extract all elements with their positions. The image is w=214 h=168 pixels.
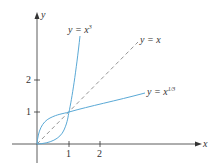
x-axis-arrow-icon [195, 142, 202, 147]
label-x-cubed: y = x3 [68, 24, 92, 35]
line-y-equals-x [37, 42, 138, 144]
y-axis-arrow-icon [35, 12, 40, 19]
x-axis-label: x [203, 138, 207, 149]
label-cube-root-base: y = x [147, 86, 168, 97]
curve-cube-root [37, 93, 145, 144]
y-tick-label-2: 2 [26, 74, 31, 85]
y-axis-label: y [41, 9, 45, 20]
y-tick-label-1: 1 [26, 106, 31, 117]
chart-canvas [0, 0, 214, 168]
curve-x-cubed [37, 36, 80, 144]
x-tick-label-1: 1 [66, 148, 71, 159]
x-tick-label-2: 2 [97, 148, 102, 159]
label-x-cubed-base: y = x [68, 24, 89, 35]
label-cube-root: y = x1/3 [147, 86, 175, 97]
label-identity: y = x [140, 34, 161, 45]
label-cube-root-exp: 1/3 [168, 86, 176, 92]
label-x-cubed-exp: 3 [89, 24, 92, 30]
